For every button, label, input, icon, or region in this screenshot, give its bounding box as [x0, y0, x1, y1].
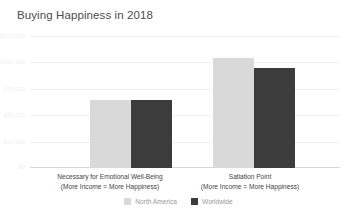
- y-axis-tick-label: $25,000: [3, 139, 25, 145]
- legend-label: North America: [135, 198, 177, 205]
- y-axis-tick-label: $50,000: [3, 112, 25, 118]
- legend-swatch-icon: [124, 198, 131, 205]
- plot-area: $125,000 $100,000 $75,000 $50,000 $25,00…: [30, 36, 340, 168]
- bar-north-america-satiation[interactable]: [213, 58, 254, 168]
- bar-group-satiation-point: [213, 36, 295, 168]
- legend-item-worldwide[interactable]: Worldwide: [191, 198, 233, 205]
- chart-legend: North America Worldwide: [0, 198, 357, 205]
- x-axis-label-group-1: Satiation Point (More Income = More Happ…: [155, 172, 345, 191]
- y-axis-tick-label: $100,000: [0, 59, 25, 65]
- bar-worldwide-necessary[interactable]: [131, 100, 172, 168]
- y-axis-tick-label: $0: [18, 164, 25, 170]
- y-axis-tick-label: $125,000: [0, 33, 25, 39]
- x-axis-label-sub: (More Income = More Happiness): [155, 182, 345, 192]
- bar-north-america-necessary[interactable]: [90, 100, 131, 168]
- chart-title: Buying Happiness in 2018: [17, 9, 153, 21]
- bar-worldwide-satiation[interactable]: [254, 68, 295, 168]
- legend-swatch-icon: [191, 198, 198, 205]
- y-axis-tick-label: $75,000: [3, 86, 25, 92]
- x-axis-label-main: Satiation Point: [155, 172, 345, 182]
- legend-label: Worldwide: [202, 198, 233, 205]
- bar-chart: Buying Happiness in 2018 $125,000 $100,0…: [0, 0, 357, 224]
- legend-item-north-america[interactable]: North America: [124, 198, 177, 205]
- bar-group-necessary-for-emotional-well-being: [90, 36, 172, 168]
